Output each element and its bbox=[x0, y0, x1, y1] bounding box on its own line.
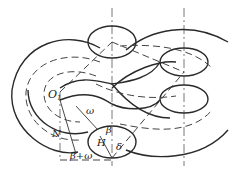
label-o1: O1 bbox=[48, 88, 62, 102]
label-h: H bbox=[96, 137, 106, 148]
label-omega: ω bbox=[86, 105, 94, 116]
outer-ring-top-right bbox=[126, 30, 228, 50]
label-delta: δ bbox=[116, 141, 122, 152]
diagram: O1 ω N β+ω β H δ bbox=[0, 0, 239, 169]
dashed-ring-bottom-right bbox=[120, 110, 212, 129]
outer-ring-bottom-right bbox=[126, 130, 228, 157]
inner-band-upper bbox=[60, 62, 160, 88]
diagonal-upper-left bbox=[60, 42, 112, 92]
band-cross-1 bbox=[112, 62, 176, 88]
label-beta: β bbox=[105, 124, 112, 135]
label-n: N bbox=[51, 128, 62, 139]
diagonal-lower-right bbox=[112, 72, 184, 158]
band-cross-2 bbox=[112, 84, 170, 118]
label-beta-plus-omega: β+ω bbox=[69, 150, 92, 161]
geometry-figure: O1 ω N β+ω β H δ bbox=[0, 0, 239, 169]
construction-line-N bbox=[60, 100, 76, 154]
